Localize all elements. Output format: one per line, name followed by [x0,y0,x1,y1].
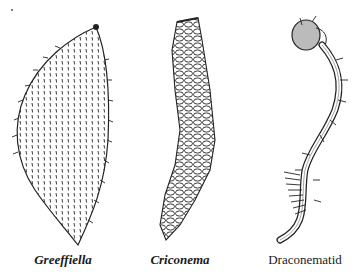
caption-draconematid: Draconematid [260,252,350,268]
caption-criconema: Criconema [140,252,220,268]
draconematid-illustration [250,0,363,250]
criconema-illustration [130,0,250,250]
nematode-figure-plate: Greeffiella Criconema Draconematid [0,0,363,275]
caption-greeffiella: Greeffiella [18,252,108,268]
greeffiella-illustration [0,0,130,250]
